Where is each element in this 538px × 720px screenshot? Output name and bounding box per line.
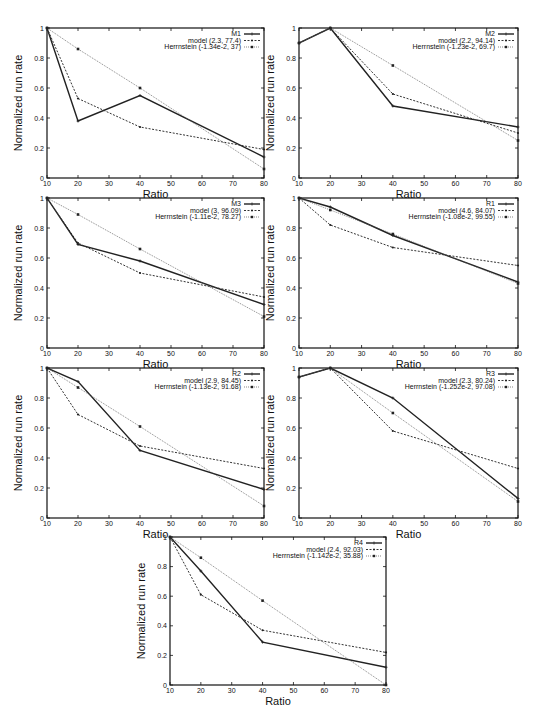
- data-point: [139, 248, 142, 251]
- data-point: [139, 425, 142, 428]
- x-tick-label: 40: [389, 180, 397, 187]
- plot-frame: [299, 368, 518, 518]
- x-tick-label: 20: [74, 180, 82, 187]
- y-tick-label: 1: [40, 365, 44, 372]
- x-tick-label: 50: [420, 520, 428, 527]
- data-point: [200, 594, 202, 596]
- x-tick-label: 10: [295, 520, 303, 527]
- y-tick-label: 0: [40, 175, 44, 182]
- x-tick-label: 70: [483, 350, 491, 357]
- y-axis-label: Normalized run rate: [264, 225, 276, 322]
- x-tick-label: 60: [320, 687, 328, 694]
- x-tick-label: 40: [259, 687, 267, 694]
- x-tick-label: 60: [452, 350, 460, 357]
- x-tick-label: 20: [74, 350, 82, 357]
- chart-panel-r2: 102030405060708000.20.40.60.81RatioNorma…: [2, 360, 270, 544]
- y-tick-label: 0.8: [157, 563, 167, 570]
- y-tick-label: 0.4: [286, 115, 296, 122]
- y-tick-label: 0: [40, 515, 44, 522]
- y-tick-label: 0.4: [34, 455, 44, 462]
- x-tick-label: 60: [198, 180, 206, 187]
- data-point: [392, 246, 394, 248]
- data-point: [77, 413, 79, 415]
- data-point: [329, 209, 332, 212]
- chart-panel-m1: 102030405060708000.20.40.60.81RatioNorma…: [2, 20, 270, 204]
- data-point: [385, 651, 387, 653]
- data-point: [329, 27, 332, 30]
- x-tick-label: 10: [43, 350, 51, 357]
- x-tick-label: 70: [229, 180, 237, 187]
- y-axis-label: Normalized run rate: [264, 395, 276, 492]
- y-tick-label: 0.6: [286, 85, 296, 92]
- data-point: [77, 386, 80, 389]
- y-tick-label: 0: [292, 345, 296, 352]
- y-tick-label: 0.8: [34, 55, 44, 62]
- data-point: [139, 445, 141, 447]
- data-point: [392, 430, 394, 432]
- y-tick-label: 0.2: [286, 315, 296, 322]
- x-tick-label: 20: [197, 687, 205, 694]
- x-tick-label: 40: [136, 350, 144, 357]
- y-tick-label: 0: [40, 345, 44, 352]
- y-tick-label: 0.6: [286, 425, 296, 432]
- x-tick-label: 60: [198, 350, 206, 357]
- y-tick-label: 0.6: [34, 85, 44, 92]
- x-tick-label: 40: [389, 520, 397, 527]
- y-tick-label: 1: [292, 195, 296, 202]
- x-tick-label: 30: [105, 350, 113, 357]
- y-axis-label: Normalized run rate: [135, 563, 147, 660]
- x-tick-label: 50: [167, 520, 175, 527]
- x-tick-label: 60: [452, 520, 460, 527]
- y-tick-label: 0: [292, 175, 296, 182]
- chart-panel-r1: 102030405060708000.20.40.60.81RatioNorma…: [254, 190, 524, 374]
- y-axis-label: Normalized run rate: [12, 225, 24, 322]
- data-point: [77, 213, 80, 216]
- x-tick-label: 10: [295, 180, 303, 187]
- data-point: [392, 412, 395, 415]
- x-tick-label: 70: [351, 687, 359, 694]
- x-tick-label: 40: [136, 180, 144, 187]
- x-tick-label: 70: [229, 350, 237, 357]
- y-tick-label: 0.6: [157, 593, 167, 600]
- x-tick-label: 10: [166, 687, 174, 694]
- data-point: [46, 197, 49, 200]
- data-point: [200, 556, 203, 559]
- x-tick-label: 80: [382, 687, 390, 694]
- data-point: [46, 27, 49, 30]
- x-tick-label: 50: [167, 180, 175, 187]
- x-tick-label: 40: [389, 350, 397, 357]
- y-axis-label: Normalized run rate: [264, 55, 276, 152]
- legend-label: Herrnstein (-1.23e-2, 69.7): [413, 43, 495, 51]
- x-tick-label: 50: [167, 350, 175, 357]
- y-tick-label: 0.2: [157, 652, 167, 659]
- data-point: [517, 126, 520, 129]
- plot-frame: [47, 198, 264, 348]
- chart-panel-r3: 102030405060708000.20.40.60.81RatioNorma…: [254, 360, 524, 544]
- y-tick-label: 1: [40, 195, 44, 202]
- legend-label: Herrnstein (-1.08e-2, 99.55): [409, 213, 495, 221]
- x-tick-label: 10: [295, 350, 303, 357]
- x-axis-label: Ratio: [396, 528, 422, 540]
- plot-frame: [299, 198, 518, 348]
- data-point: [139, 272, 141, 274]
- x-tick-label: 20: [74, 520, 82, 527]
- data-point: [517, 139, 520, 142]
- chart-panel-r4: 102030405060708000.20.40.60.81RatioNorma…: [125, 529, 392, 711]
- y-tick-label: 0.2: [34, 315, 44, 322]
- y-axis-label: Normalized run rate: [12, 395, 24, 492]
- x-tick-label: 20: [326, 520, 334, 527]
- legend-label: Herrnstein (-1.34e-2, 37): [164, 43, 241, 51]
- x-tick-label: 60: [198, 520, 206, 527]
- x-tick-label: 30: [105, 180, 113, 187]
- x-tick-label: 10: [43, 180, 51, 187]
- x-tick-label: 30: [105, 520, 113, 527]
- y-tick-label: 0.2: [286, 485, 296, 492]
- y-tick-label: 0.6: [34, 255, 44, 262]
- y-tick-label: 0.4: [286, 285, 296, 292]
- plot-frame: [299, 28, 518, 178]
- y-tick-label: 1: [292, 365, 296, 372]
- data-point: [46, 367, 49, 370]
- x-tick-label: 50: [420, 180, 428, 187]
- data-point: [261, 599, 264, 602]
- legend-label: Herrnstein (-1.252e-2, 97.08): [405, 383, 495, 391]
